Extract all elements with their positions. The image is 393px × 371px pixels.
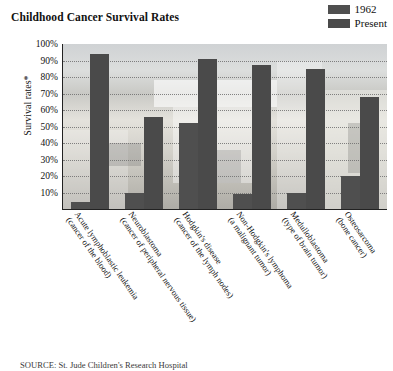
y-axis-tick-label: 100% <box>24 39 58 49</box>
y-axis-tick-label: 40% <box>24 138 58 148</box>
y-axis-tick-label: 20% <box>24 171 58 181</box>
x-axis-category-label: Medulloblastoma(type of brain tumor) <box>281 210 338 280</box>
bar-present <box>198 59 217 209</box>
bar-group <box>225 44 279 209</box>
y-axis-tick-label: 70% <box>24 89 58 99</box>
bar-present <box>360 97 379 209</box>
bar-group <box>279 44 333 209</box>
legend-label-present: Present <box>355 18 387 29</box>
y-axis-tick-label: 10% <box>24 188 58 198</box>
category-label-line2: (cancer of the blood) <box>65 216 133 308</box>
bar-group <box>117 44 171 209</box>
bar-1962 <box>179 123 198 209</box>
y-axis-tick-label: 80% <box>24 72 58 82</box>
source-note: SOURCE: St. Jude Children's Research Hos… <box>20 360 188 370</box>
legend-label-1962: 1962 <box>355 4 377 15</box>
x-axis-category-label: Osteosarcoma(bone cancer) <box>335 210 379 261</box>
bars-layer <box>63 44 387 209</box>
legend-swatch-1962 <box>328 5 350 14</box>
y-axis-tick-labels: 100%90%80%70%60%50%40%30%20%10% <box>24 38 58 214</box>
bar-group <box>63 44 117 209</box>
x-axis-category-labels: Acute lymphoblastic leukemia(cancer of t… <box>62 210 386 360</box>
plot-area <box>62 44 387 210</box>
legend-item-1962: 1962 <box>328 3 387 15</box>
y-axis-tick-label: 90% <box>24 56 58 66</box>
bar-present <box>306 69 325 209</box>
bar-group <box>171 44 225 209</box>
chart-legend: 1962 Present <box>328 3 387 29</box>
bar-1962 <box>233 194 252 209</box>
bar-present <box>252 65 271 209</box>
bar-present <box>90 54 109 209</box>
y-axis-tick-label: 30% <box>24 155 58 165</box>
bar-group <box>333 44 387 209</box>
bar-present <box>144 117 163 209</box>
bar-1962 <box>341 176 360 209</box>
bar-1962 <box>287 193 306 210</box>
y-axis-tick-label: 50% <box>24 122 58 132</box>
y-axis-tick-label: 60% <box>24 105 58 115</box>
legend-swatch-present <box>328 19 350 28</box>
page-title: Childhood Cancer Survival Rates <box>11 11 179 23</box>
bar-1962 <box>125 193 144 210</box>
legend-item-present: Present <box>328 17 387 29</box>
